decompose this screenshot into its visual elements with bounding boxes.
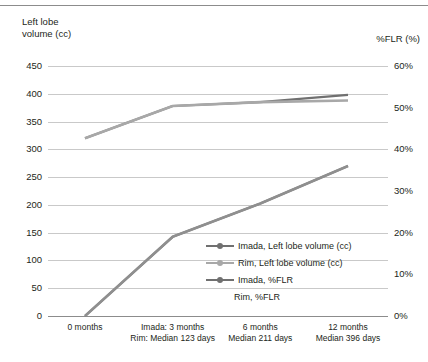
- x-axis-label: 0 months: [39, 322, 131, 333]
- legend-item[interactable]: Rim, %FLR: [234, 291, 280, 303]
- legend-label: Imada, %FLR: [238, 275, 293, 285]
- legend-swatch: [206, 274, 234, 286]
- x-axis-label: 12 months Median 396 days: [302, 322, 394, 344]
- legend-item[interactable]: Imada, %FLR: [206, 274, 293, 286]
- legend-item[interactable]: Rim, Left lobe volume (cc): [206, 257, 343, 269]
- plot-lines: [0, 0, 428, 362]
- x-axis-label: 6 months Median 211 days: [214, 322, 306, 344]
- legend-label: Rim, Left lobe volume (cc): [238, 258, 343, 268]
- x-axis-label: Imada: 3 months Rim: Median 123 days: [127, 322, 219, 344]
- legend-swatch: [206, 257, 234, 269]
- legend-swatch: [206, 240, 234, 252]
- chart-figure: Left lobe volume (cc) %FLR (%) 450400350…: [0, 0, 428, 362]
- legend-label: Rim, %FLR: [234, 292, 280, 302]
- legend-item[interactable]: Imada, Left lobe volume (cc): [206, 240, 352, 252]
- series-line: [85, 100, 348, 138]
- legend-label: Imada, Left lobe volume (cc): [238, 241, 352, 251]
